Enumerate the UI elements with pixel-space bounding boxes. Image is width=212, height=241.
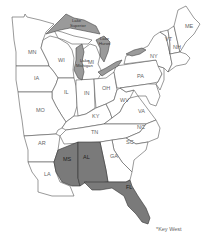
label-sc: SC (126, 139, 134, 145)
label-wi: WI (58, 57, 65, 63)
eastern-us-map: MN WI MI IA IL IN OH MO KY WV VA PA NY V… (0, 0, 212, 241)
state-ar[interactable] (24, 134, 60, 162)
label-nc: NC (137, 124, 145, 130)
label-ky: KY (92, 113, 100, 119)
label-pa: PA (137, 73, 144, 79)
label-lake-superior: LakeSuperior (70, 18, 86, 28)
label-vt: VT (165, 36, 173, 42)
label-va: VA (138, 108, 145, 114)
label-lake-huron: LakeHuron (99, 36, 111, 46)
label-ga: GA (110, 153, 118, 159)
label-la: LA (44, 171, 51, 177)
label-mn: MN (28, 49, 37, 55)
label-in: IN (84, 90, 90, 96)
state-ma-ct-ri[interactable] (168, 52, 190, 72)
state-fl[interactable] (84, 180, 150, 224)
label-al: AL (83, 154, 90, 160)
label-ia: IA (34, 75, 40, 81)
label-me: ME (185, 23, 194, 29)
label-wv: WV (120, 97, 129, 103)
label-ny: NY (150, 53, 158, 59)
label-mo: MO (36, 107, 46, 113)
key-west-footnote: *Key West (156, 226, 182, 232)
label-nh: NH (173, 44, 181, 50)
label-il: IL (64, 89, 69, 95)
label-tn: TN (91, 129, 98, 135)
label-fl: FL (126, 184, 132, 190)
label-ms: MS (63, 156, 72, 162)
label-oh: OH (102, 85, 110, 91)
label-ar: AR (38, 140, 46, 146)
